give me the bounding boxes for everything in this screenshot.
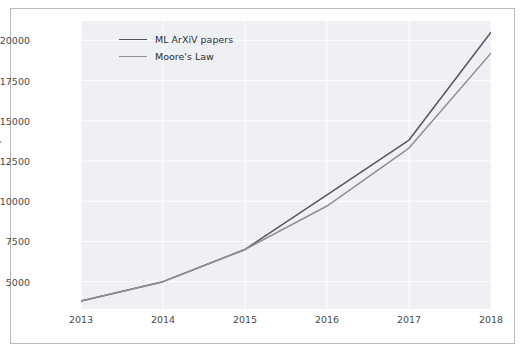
x-tick-label: 2017 (379, 314, 439, 325)
x-tick-label: 2016 (297, 314, 357, 325)
y-tick-label: 15000 (0, 115, 30, 126)
chart-legend: ML ArXiV papers Moore's Law (119, 31, 233, 65)
y-tick-label: 7500 (0, 236, 30, 247)
legend-swatch-line (119, 56, 147, 57)
figure-frame: Number of Papers ML ArXiV papers Moore's… (10, 8, 515, 344)
series-line (81, 32, 491, 301)
plot-area: ML ArXiV papers Moore's Law (81, 21, 491, 309)
x-tick-label: 2014 (133, 314, 193, 325)
y-tick-label: 20000 (0, 35, 30, 46)
y-tick-label: 12500 (0, 155, 30, 166)
legend-item-ml-arxiv-papers: ML ArXiV papers (119, 31, 233, 48)
x-tick-label: 2015 (215, 314, 275, 325)
legend-item-moores-law: Moore's Law (119, 48, 233, 65)
legend-label: ML ArXiV papers (155, 34, 233, 45)
y-tick-label: 5000 (0, 276, 30, 287)
legend-swatch-line (119, 39, 147, 40)
series-line (81, 53, 491, 301)
y-tick-label: 10000 (0, 196, 30, 207)
y-tick-label: 17500 (0, 75, 30, 86)
x-tick-label: 2018 (461, 314, 521, 325)
legend-label: Moore's Law (155, 51, 214, 62)
series-lines (81, 32, 491, 301)
x-tick-label: 2013 (51, 314, 111, 325)
